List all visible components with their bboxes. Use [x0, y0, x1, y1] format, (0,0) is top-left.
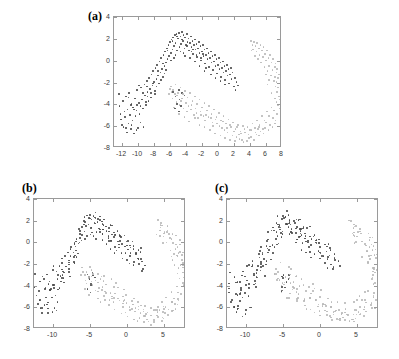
data-point [86, 283, 88, 285]
y-tick-label: -4 [207, 281, 223, 288]
data-point [370, 304, 372, 306]
data-point [250, 40, 252, 42]
data-point [220, 76, 222, 78]
y-tick-right [277, 126, 280, 127]
y-tick-label: 2 [94, 34, 110, 41]
data-point [372, 271, 374, 273]
data-point [115, 282, 117, 284]
data-point [65, 266, 67, 268]
data-point [303, 300, 305, 302]
data-point [254, 127, 256, 129]
data-point [228, 288, 230, 290]
data-point [70, 255, 72, 257]
data-point [81, 226, 83, 228]
data-point [129, 255, 131, 257]
data-point [200, 111, 202, 113]
data-point [374, 254, 376, 256]
data-point [266, 240, 268, 242]
data-point [170, 52, 172, 54]
data-point [274, 76, 276, 78]
data-point [47, 302, 49, 304]
data-point [76, 238, 78, 240]
data-point [276, 91, 278, 93]
y-tick [34, 286, 37, 287]
data-point [181, 259, 183, 261]
data-point [204, 70, 206, 72]
data-point [310, 293, 312, 295]
data-point [138, 263, 140, 265]
data-point [245, 313, 247, 315]
data-point [166, 231, 168, 233]
data-point [305, 235, 307, 237]
data-point [123, 289, 125, 291]
data-point [322, 304, 324, 306]
data-point [192, 49, 194, 51]
data-point [253, 284, 255, 286]
data-point [180, 36, 182, 38]
data-point [188, 50, 190, 52]
data-point [225, 123, 227, 125]
data-point [102, 229, 104, 231]
data-point [242, 125, 244, 127]
data-point [257, 277, 259, 279]
data-point [224, 84, 226, 86]
data-point [352, 319, 354, 321]
data-point [177, 292, 179, 294]
y-tick-right [374, 221, 377, 222]
data-point [173, 57, 175, 59]
data-point [150, 315, 152, 317]
data-point [169, 88, 171, 90]
data-point [110, 292, 112, 294]
x-tick [218, 143, 219, 146]
data-point [299, 219, 301, 221]
data-point [248, 283, 250, 285]
data-point [329, 247, 331, 249]
data-point [55, 295, 57, 297]
data-point [338, 309, 340, 311]
data-point [255, 132, 257, 134]
data-point [318, 239, 320, 241]
data-point [223, 115, 225, 117]
data-point [175, 235, 177, 237]
data-point [266, 111, 268, 113]
y-tick-right [181, 221, 184, 222]
data-point [103, 219, 105, 221]
data-point [180, 100, 182, 102]
data-point [289, 293, 291, 295]
data-point [242, 297, 244, 299]
data-point [257, 265, 259, 267]
data-point [367, 262, 369, 264]
data-point [168, 55, 170, 57]
data-point [73, 261, 75, 263]
data-point [124, 116, 126, 118]
data-point [105, 226, 107, 228]
x-tick-label: 8 [279, 150, 283, 157]
data-point [96, 231, 98, 233]
data-point [264, 66, 266, 68]
data-point [148, 100, 150, 102]
data-point [168, 309, 170, 311]
data-point [353, 227, 355, 229]
data-point [139, 317, 141, 319]
data-point [250, 136, 252, 138]
data-point [375, 257, 377, 259]
data-point [322, 305, 324, 307]
data-point [302, 228, 304, 230]
data-point [314, 312, 316, 314]
data-point [312, 283, 314, 285]
data-point [130, 104, 132, 106]
data-point [172, 37, 174, 39]
data-point [163, 236, 165, 238]
data-point [81, 240, 83, 242]
data-point [282, 233, 284, 235]
data-point [59, 265, 61, 267]
data-point [152, 83, 154, 85]
data-point [242, 271, 244, 273]
data-point [252, 123, 254, 125]
data-point [252, 264, 254, 266]
data-point [327, 256, 329, 258]
data-point [164, 312, 166, 314]
data-point [301, 278, 303, 280]
data-point [186, 111, 188, 113]
x-tick-top [53, 199, 54, 202]
